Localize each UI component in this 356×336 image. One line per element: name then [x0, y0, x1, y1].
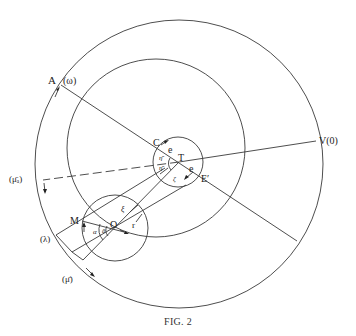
label-O: O — [110, 219, 117, 230]
arrow-omega-icon — [55, 86, 60, 97]
label-e-upper: e — [168, 144, 173, 155]
label-A: A — [48, 74, 56, 86]
outer-circle — [35, 20, 323, 308]
label-eta-upper: η̄ — [159, 154, 164, 162]
vernal-line — [179, 141, 316, 162]
label-C: C — [153, 137, 160, 148]
figure-caption: FIG. 2 — [0, 316, 356, 327]
label-xi: ξ — [121, 205, 125, 214]
xi-tick — [130, 205, 138, 212]
label-V0: V(0) — [319, 135, 338, 147]
label-lambda: (λ) — [40, 234, 50, 244]
arrow-mu-a-icon — [43, 183, 47, 194]
label-omega: (ω) — [63, 75, 76, 87]
planetary-model-diagram: A (ω) C e T e E′ V(0) (μ̄ₐ) M O (λ) (μ̄)… — [0, 0, 356, 336]
label-r: r — [132, 220, 135, 230]
apsidal-line — [61, 85, 297, 241]
label-T: T — [178, 152, 184, 163]
label-M: M — [70, 215, 79, 226]
connector-left-lower — [72, 252, 83, 260]
label-E-prime: E′ — [201, 173, 209, 184]
r-tick — [136, 214, 142, 222]
label-zeta: ζ — [173, 175, 177, 183]
parallel-line-lower — [72, 185, 186, 252]
eta-arc — [168, 158, 171, 170]
label-mu-bar: (μ̄) — [62, 274, 73, 284]
label-e-lower: e — [189, 163, 194, 174]
label-mu-bar-a: (μ̄ₐ) — [9, 174, 22, 184]
label-alpha: α — [93, 228, 97, 236]
